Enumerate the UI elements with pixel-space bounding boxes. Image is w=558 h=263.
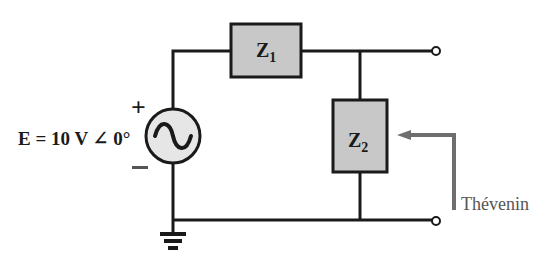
- z2-sub: 2: [361, 140, 368, 155]
- z1-sub: 1: [269, 50, 276, 65]
- z2-letter: Z: [348, 129, 361, 151]
- ac-source-icon: [146, 109, 200, 163]
- z1-letter: Z: [256, 39, 269, 61]
- terminal-bottom: [432, 217, 440, 225]
- impedance-z1: Z1: [231, 24, 301, 77]
- thevenin-label: Thévenin: [461, 194, 529, 214]
- circuit-diagram: Z1 Z2 + E = 10 V ∠ 0° Thévenin: [0, 0, 558, 263]
- terminal-top: [432, 47, 440, 55]
- minus-sign: [132, 166, 148, 169]
- source-label: E = 10 V ∠ 0°: [18, 128, 130, 149]
- ground-icon: [160, 232, 186, 250]
- plus-sign: +: [131, 93, 146, 122]
- thevenin-arrow-icon: [397, 130, 454, 210]
- impedance-z2: Z2: [333, 100, 387, 172]
